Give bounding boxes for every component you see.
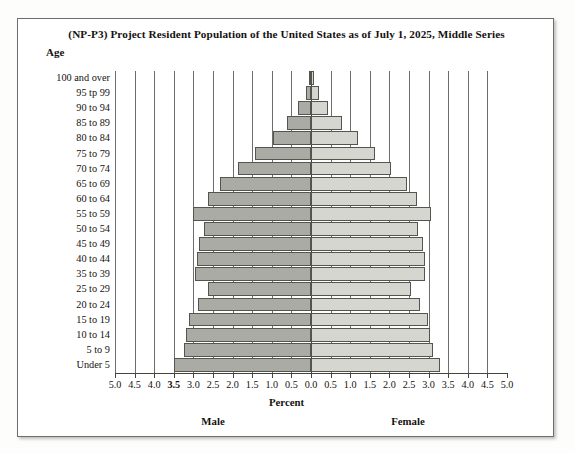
x-axis-tick [154, 373, 155, 378]
x-axis-tick [370, 373, 371, 378]
bar-row [115, 177, 507, 191]
bar-male [197, 252, 311, 266]
x-axis-tick [409, 373, 410, 378]
bar-female [311, 267, 425, 281]
bar-male [298, 101, 311, 115]
bar-female [311, 207, 431, 221]
bar-male [193, 207, 311, 221]
x-axis-tick [252, 373, 253, 378]
x-axis-tick [468, 373, 469, 378]
y-axis-tick-label: 15 to 19 [18, 315, 110, 325]
x-axis-tick [115, 373, 116, 378]
plot-area [115, 71, 507, 373]
x-axis-tick [350, 373, 351, 378]
x-axis-tick [272, 373, 273, 378]
bar-male [238, 162, 311, 176]
bar-male [220, 177, 311, 191]
bar-female [311, 313, 428, 327]
bar-male [208, 192, 311, 206]
x-axis-tick [389, 373, 390, 378]
bar-female [311, 222, 418, 236]
bar-male [287, 116, 311, 130]
bar-row [115, 192, 507, 206]
x-axis-tick [311, 373, 312, 378]
bar-row [115, 207, 507, 221]
y-axis-tick-label: 95 tp 99 [18, 88, 110, 98]
x-axis-tick [135, 373, 136, 378]
y-axis-tick-label: 70 to 74 [18, 164, 110, 174]
bar-male [184, 343, 311, 357]
bar-female [311, 298, 420, 312]
y-axis-tick-label: 45 to 49 [18, 239, 110, 249]
bar-male [186, 328, 311, 342]
bar-rows [115, 71, 507, 373]
bar-female [311, 101, 328, 115]
bar-row [115, 237, 507, 251]
bar-female [311, 282, 411, 296]
bar-female [311, 237, 423, 251]
y-axis-tick-label: 5 to 9 [18, 345, 110, 355]
y-axis-tick-label: 90 to 94 [18, 103, 110, 113]
y-axis-tick-label: 50 to 54 [18, 224, 110, 234]
y-axis-tick-label: 85 to 89 [18, 118, 110, 128]
bar-male [195, 267, 311, 281]
legend-male: Male [168, 415, 258, 427]
bar-male [204, 222, 311, 236]
chart-page: (NP-P3) Project Resident Population of t… [0, 0, 575, 453]
bar-row [115, 147, 507, 161]
y-axis-tick-label: 80 to 84 [18, 133, 110, 143]
y-axis-tick-label: 40 to 44 [18, 254, 110, 264]
bar-female [311, 177, 407, 191]
bar-female [311, 131, 358, 145]
bar-row [115, 282, 507, 296]
x-axis-tick [429, 373, 430, 378]
bar-male [189, 313, 311, 327]
bar-row [115, 267, 507, 281]
bar-male [255, 147, 311, 161]
bar-female [311, 86, 319, 100]
bar-row [115, 86, 507, 100]
bar-row [115, 222, 507, 236]
y-axis-tick-label: 55 to 59 [18, 209, 110, 219]
chart-card: (NP-P3) Project Resident Population of t… [17, 18, 554, 437]
bar-row [115, 358, 507, 372]
y-axis-tick-label: 65 to 69 [18, 179, 110, 189]
bar-row [115, 298, 507, 312]
bar-female [311, 328, 430, 342]
y-axis-tick-label: 75 to 79 [18, 149, 110, 159]
y-axis-tick-labels: 100 and over95 tp 9990 to 9485 to 8980 t… [18, 71, 110, 373]
bar-row [115, 313, 507, 327]
chart-title: (NP-P3) Project Resident Population of t… [18, 28, 555, 40]
legend-female: Female [363, 415, 453, 427]
y-axis-tick-label: 100 and over [18, 73, 110, 83]
y-axis-tick-label: 60 to 64 [18, 194, 110, 204]
bar-row [115, 162, 507, 176]
x-axis-tick [487, 373, 488, 378]
bar-row [115, 116, 507, 130]
y-axis-tick-label: 25 to 29 [18, 284, 110, 294]
bar-female [311, 252, 425, 266]
bar-male [273, 131, 311, 145]
x-axis-tick-label: 5.0 [490, 379, 524, 390]
x-axis-title: Percent [18, 396, 555, 408]
bar-row [115, 71, 507, 85]
bar-female [311, 162, 391, 176]
bar-row [115, 252, 507, 266]
bar-female [311, 71, 314, 85]
x-axis-tick [174, 373, 175, 378]
bar-female [311, 358, 440, 372]
bar-male [198, 298, 311, 312]
bar-row [115, 328, 507, 342]
bar-male [199, 237, 311, 251]
y-axis-tick-label: 10 to 14 [18, 330, 110, 340]
y-axis-tick-label: 35 to 39 [18, 269, 110, 279]
bar-female [311, 343, 433, 357]
y-axis-tick-label: Under 5 [18, 360, 110, 370]
bar-row [115, 101, 507, 115]
y-axis-title: Age [46, 46, 64, 58]
bar-female [311, 192, 417, 206]
x-axis-tick [331, 373, 332, 378]
bar-male [208, 282, 311, 296]
bar-row [115, 131, 507, 145]
x-axis-tick [193, 373, 194, 378]
